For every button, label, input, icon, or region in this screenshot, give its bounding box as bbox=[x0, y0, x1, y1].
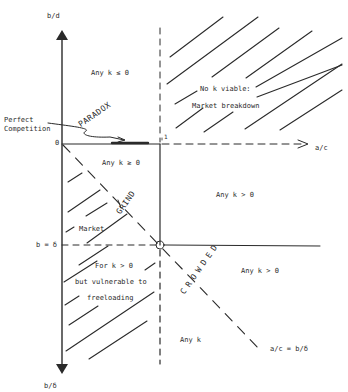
region-any-k-le-0: Any k ≤ 0 bbox=[91, 70, 129, 77]
perfect-competition-line1: Perfect bbox=[4, 117, 34, 124]
freeload-line3: freeloading bbox=[87, 295, 133, 302]
hatch-breakdown bbox=[167, 17, 342, 132]
region-any-k-gt-0-lower: Any k > 0 bbox=[241, 268, 279, 275]
phase-diagram bbox=[0, 0, 348, 392]
x-tick-one-label: 1 bbox=[164, 134, 168, 140]
market-label: Market bbox=[79, 226, 104, 233]
x-axis-label: a/c bbox=[315, 145, 328, 152]
y-axis-bottom-label: b/δ bbox=[44, 383, 57, 390]
arrow-down-icon bbox=[56, 364, 68, 374]
b-delta-label: b = δ bbox=[36, 242, 57, 249]
perfect-competition-line2: Competition bbox=[4, 126, 50, 133]
diagonal-line bbox=[63, 145, 262, 352]
y-axis-top-label: b/d bbox=[47, 13, 60, 20]
origin-label: 0 bbox=[55, 140, 59, 147]
arrow-up-icon bbox=[56, 30, 68, 40]
freeload-line1: For k > 0 bbox=[95, 263, 133, 270]
region-breakdown-line1: No k viable: bbox=[200, 86, 251, 93]
region-breakdown-line2: Market breakdown bbox=[192, 103, 259, 110]
freeload-line2: but vulnerable to bbox=[75, 279, 147, 286]
region-any-k-gt-0-upper: Any k > 0 bbox=[216, 192, 254, 199]
diagonal-label: a/c = b/δ bbox=[270, 346, 308, 353]
b-delta-solid bbox=[164, 245, 320, 246]
region-any-k-ge-0: Any k ≥ 0 bbox=[102, 160, 140, 167]
region-any-k: Any k bbox=[180, 337, 201, 344]
